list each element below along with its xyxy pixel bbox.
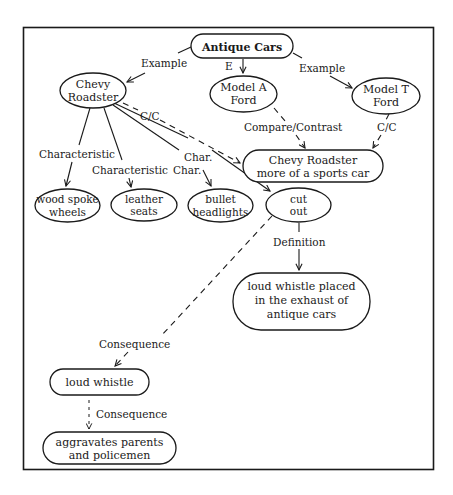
- node-bullet-headlights-line1: bullet: [205, 193, 236, 205]
- label-example-right: Example: [299, 62, 345, 74]
- node-model-t-ford[interactable]: Model T Ford: [352, 78, 420, 114]
- node-bullet-headlights-line2: headlights: [193, 206, 249, 218]
- edge-cc-t-a: [386, 114, 389, 120]
- node-model-a-line2: Ford: [231, 94, 257, 107]
- label-example-left: Example: [141, 57, 187, 69]
- node-aggravates[interactable]: aggravates parents and policemen: [43, 432, 176, 464]
- label-char-2: Char.: [173, 164, 201, 176]
- node-wood-spoke-line1: wood spoke: [36, 193, 99, 205]
- node-model-a-ford[interactable]: Model A Ford: [210, 76, 277, 112]
- edge-compare-a: [274, 108, 285, 121]
- label-compare-contrast: Compare/Contrast: [244, 121, 343, 133]
- node-sports-car[interactable]: Chevy Roadster more of a sports car: [243, 150, 383, 182]
- node-chevy-roadster[interactable]: Chevy Roadster: [60, 73, 126, 108]
- edge-cc-chevy-a: [123, 103, 138, 110]
- node-definition-line2: in the exhaust of: [255, 294, 349, 307]
- label-definition: Definition: [273, 236, 326, 248]
- edge-example-model-t-start: [293, 53, 302, 58]
- node-leather-seats-line2: seats: [130, 205, 157, 217]
- node-bullet-headlights[interactable]: bullet headlights: [188, 189, 253, 222]
- label-consequence-1: Consequence: [99, 338, 170, 350]
- node-model-a-line1: Model A: [220, 81, 267, 94]
- edge-char-leather-b: [129, 178, 131, 187]
- edge-example-chevy: [178, 47, 191, 53]
- node-definition-line3: antique cars: [267, 308, 337, 321]
- node-cut-out-line2: out: [290, 205, 308, 217]
- edge-char-wood-b: [66, 162, 72, 186]
- label-char-1: Char.: [184, 151, 212, 163]
- edge-compare-b: [296, 135, 305, 148]
- node-cut-out-line1: cut: [290, 193, 308, 205]
- edge-example-chevy-arrow: [127, 73, 145, 82]
- node-wood-spoke-line2: wheels: [49, 206, 86, 218]
- node-loud-whistle-label: loud whistle: [66, 376, 134, 389]
- node-model-t-line2: Ford: [373, 96, 399, 109]
- edge-cc-t-b: [373, 135, 381, 148]
- node-chevy-roadster-line1: Chevy: [76, 78, 111, 91]
- node-wood-spoke-wheels[interactable]: wood spoke wheels: [35, 189, 100, 222]
- label-cc-model-t: C/C: [377, 121, 397, 133]
- edge-char-bullet-b: [203, 170, 211, 186]
- node-aggravates-line1: aggravates parents: [56, 436, 164, 449]
- label-characteristic-1: Characteristic: [39, 148, 115, 160]
- node-loud-whistle[interactable]: loud whistle: [50, 369, 149, 395]
- node-sports-car-line2: more of a sports car: [257, 167, 370, 180]
- label-consequence-2: Consequence: [96, 408, 167, 420]
- node-cut-out[interactable]: cut out: [266, 188, 331, 222]
- node-sports-car-line1: Chevy Roadster: [269, 154, 358, 167]
- node-model-t-line1: Model T: [363, 83, 409, 96]
- edge-char-wood-a: [79, 108, 90, 145]
- node-definition-line1: loud whistle placed: [247, 280, 355, 293]
- label-cc-chevy: C/C: [140, 110, 160, 122]
- node-leather-seats-line1: leather: [125, 193, 164, 205]
- node-antique-cars[interactable]: Antique Cars: [191, 34, 293, 58]
- edge-example-model-t: [330, 76, 352, 88]
- label-example-mid: E: [225, 60, 233, 72]
- concept-map-diagram: Antique Cars Chevy Roadster Model A Ford…: [0, 0, 453, 495]
- node-aggravates-line2: and policemen: [69, 449, 151, 462]
- label-characteristic-2: Characteristic: [92, 164, 168, 176]
- edge-consequence-1-b: [115, 352, 128, 366]
- node-chevy-roadster-line2: Roadster: [68, 91, 119, 104]
- node-antique-cars-label: Antique Cars: [201, 41, 282, 54]
- node-leather-seats[interactable]: leather seats: [111, 189, 177, 221]
- node-definition-box[interactable]: loud whistle placed in the exhaust of an…: [233, 273, 370, 330]
